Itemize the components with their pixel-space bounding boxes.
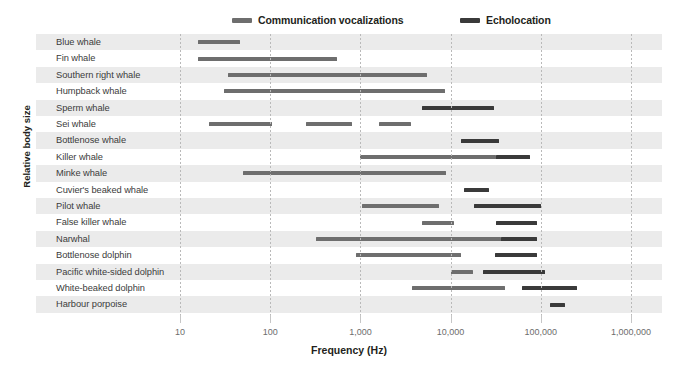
x-tick-label: 1,000 [349,327,372,337]
row-label-bottlenose-dolphin: Bottlenose dolphin [56,247,132,263]
x-tick-mark [451,315,452,323]
chart-row: Pacific white-sided dolphin [36,264,662,280]
range-bar [451,270,473,274]
legend-swatch-echolocation [460,18,480,23]
range-bar [306,122,352,126]
chart-row: Harbour porpoise [36,296,662,312]
range-bar [522,286,577,290]
row-label-minke-whale: Minke whale [56,165,107,181]
chart-row: Bottlenose dolphin [36,247,662,263]
x-tick-label: 100 [263,327,278,337]
row-label-blue-whale: Blue whale [56,34,101,50]
range-bar [224,89,444,93]
range-bar [379,122,411,126]
range-bar [243,171,446,175]
row-label-pilot-whale: Pilot whale [56,198,100,214]
chart-row: Southern right whale [36,67,662,83]
x-tick-label: 100,000 [525,327,558,337]
chart-row: Blue whale [36,34,662,50]
range-bar [464,188,490,192]
chart-row: False killer whale [36,214,662,230]
x-tick-mark [270,315,271,323]
chart-row: Pilot whale [36,198,662,214]
row-label-narwhal: Narwhal [56,231,90,247]
y-axis-title: Relative body size [19,0,33,292]
legend-label-echolocation: Echolocation [486,14,551,26]
row-label-cuvier-s-beaked-whale: Cuvier's beaked whale [56,182,148,198]
range-bar [316,237,501,241]
range-bar [422,221,454,225]
legend-entry-communication: Communication vocalizations [232,14,404,26]
range-bar [362,204,439,208]
range-bar [228,73,427,77]
x-tick-mark [631,315,632,323]
range-bar [422,106,494,110]
y-axis-title-text: Relative body size [21,105,32,187]
row-label-pacific-white-sided-dolphin: Pacific white-sided dolphin [56,264,164,280]
row-label-killer-whale: Killer whale [56,149,103,165]
legend-entry-echolocation: Echolocation [460,14,551,26]
chart-row: White-beaked dolphin [36,280,662,296]
range-bar [550,303,565,307]
row-label-sei-whale: Sei whale [56,116,96,132]
x-axis-title: Frequency (Hz) [36,344,662,356]
row-label-southern-right-whale: Southern right whale [56,67,140,83]
chart-row: Humpback whale [36,83,662,99]
legend-label-communication: Communication vocalizations [258,14,404,26]
range-bar [360,155,496,159]
chart-row: Bottlenose whale [36,132,662,148]
chart-row: Minke whale [36,165,662,181]
row-label-harbour-porpoise: Harbour porpoise [56,296,127,312]
x-tick-mark [360,315,361,323]
range-bar [496,155,529,159]
range-bar [198,57,337,61]
range-bar [461,139,499,143]
row-label-false-killer-whale: False killer whale [56,214,126,230]
chart-row: Sei whale [36,116,662,132]
x-tick-mark [180,315,181,323]
row-label-humpback-whale: Humpback whale [56,83,127,99]
chart-row: Fin whale [36,50,662,66]
chart-row: Cuvier's beaked whale [36,182,662,198]
legend-swatch-communication [232,18,252,23]
range-bar [412,286,505,290]
range-bar [474,204,541,208]
range-bar [483,270,544,274]
chart-row: Killer whale [36,149,662,165]
range-bar [198,40,239,44]
x-tick-label: 10,000 [437,327,465,337]
chart-legend: Communication vocalizations Echolocation [0,14,682,30]
x-tick-label: 10 [175,327,185,337]
x-tick-label: 1,000,000 [611,327,651,337]
chart-row: Narwhal [36,231,662,247]
chart-row: Sperm whale [36,100,662,116]
row-label-white-beaked-dolphin: White-beaked dolphin [56,280,145,296]
row-label-fin-whale: Fin whale [56,50,95,66]
row-label-sperm-whale: Sperm whale [56,100,110,116]
range-bar [496,221,537,225]
x-tick-mark [541,315,542,323]
row-label-bottlenose-whale: Bottlenose whale [56,132,126,148]
range-bar [356,253,461,257]
range-bar [501,237,537,241]
range-bar [209,122,272,126]
whale-frequency-chart: Communication vocalizations Echolocation… [0,0,682,368]
range-bar [495,253,537,257]
plot-area: Blue whaleFin whaleSouthern right whaleH… [36,34,662,319]
